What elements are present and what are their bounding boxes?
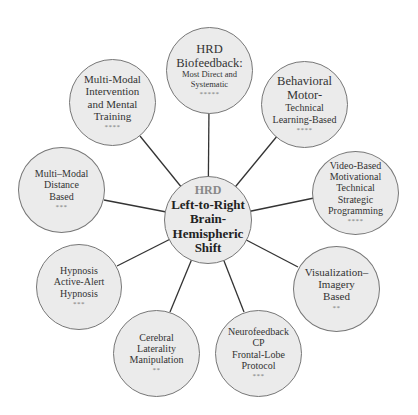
node-title: Multi-Modal [84, 73, 141, 85]
rating-stars: *** [56, 204, 68, 212]
node-behavioral-motor: Behavioral Motor- Technical Learning-Bas… [261, 61, 348, 148]
node-title: Video-Based [330, 160, 382, 171]
rating-stars: **** [348, 218, 364, 226]
node-title: Programming [328, 205, 383, 216]
node-title: Visualization– [305, 266, 369, 278]
node-title: Training [94, 110, 132, 122]
node-title: Distance [44, 179, 79, 190]
node-title: Hypnosis [60, 265, 98, 276]
node-title: HRD [196, 42, 222, 56]
rating-stars: ** [333, 305, 341, 313]
node-cerebral-laterality: Cerebral Laterality Manipulation ** [113, 310, 200, 397]
node-subtitle: Systematic [191, 80, 228, 90]
node-title: Behavioral [277, 74, 332, 88]
node-hrd-biofeedback: HRD Biofeedback: Most Direct and Systema… [166, 27, 253, 114]
center-title: Left-to-Right [171, 198, 245, 213]
node-title: Intervention [86, 85, 140, 97]
rating-stars: **** [105, 124, 121, 132]
node-title: Neurofeedback [228, 326, 289, 337]
node-title: Active-Alert [54, 276, 105, 287]
node-title: Motor- [287, 88, 322, 102]
node-title: CP [252, 337, 264, 348]
node-visualization: Visualization– Imagery Based ** [293, 246, 380, 332]
node-title: Laterality [137, 343, 176, 354]
center-title: Hemispheric [173, 227, 244, 242]
center-hub: HRD Left-to-Right Brain- Hemispheric Shi… [164, 176, 252, 264]
node-title: Frontal-Lobe [232, 349, 285, 360]
node-title: Protocol [242, 360, 276, 371]
node-title: Strategic [338, 194, 374, 205]
center-prefix: HRD [195, 184, 222, 197]
node-multi-modal-intervention: Multi-Modal Intervention and Mental Trai… [69, 59, 156, 146]
node-multi-modal-distance: Multi–Modal Distance Based *** [18, 147, 105, 233]
node-title: Multi–Modal [35, 168, 88, 179]
node-title: Manipulation [130, 354, 184, 365]
node-subtitle: Learning-Based [273, 114, 337, 125]
node-hypnosis: Hypnosis Active-Alert Hypnosis *** [36, 244, 122, 330]
node-neurofeedback: Neurofeedback CP Frontal-Lobe Protocol *… [215, 310, 302, 397]
rating-stars: ***** [200, 91, 220, 99]
center-title: Brain- [190, 212, 226, 227]
node-title: Hypnosis [60, 288, 98, 299]
rating-stars: ** [153, 367, 161, 375]
node-title: Based [49, 191, 73, 202]
node-title: Technical [336, 182, 375, 193]
rating-stars: *** [253, 373, 265, 381]
node-subtitle: Technical [285, 102, 324, 113]
node-title: Cerebral [139, 332, 173, 343]
node-video-based: Video-Based Motivational Technical Strat… [312, 151, 399, 235]
rating-stars: **** [297, 127, 313, 135]
node-title: Motivational [330, 171, 382, 182]
node-title: Imagery [318, 278, 355, 290]
center-title: Shift [195, 241, 222, 256]
node-title: Biofeedback: [176, 56, 243, 70]
rating-stars: *** [73, 301, 85, 309]
node-title: Based [323, 290, 350, 302]
node-title: and Mental [88, 98, 138, 110]
